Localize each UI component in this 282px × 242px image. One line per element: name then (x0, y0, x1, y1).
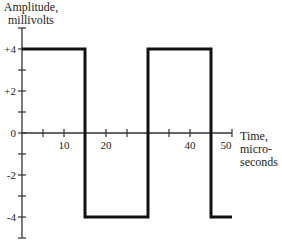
x-axis-title: Time, micro- seconds (240, 130, 282, 169)
y-tick-label: +4 (4, 43, 16, 55)
x-axis-title-line-3: seconds (240, 156, 282, 169)
plot-area: +4+20-2-410204050 (0, 0, 282, 242)
y-tick-label: +2 (4, 85, 16, 97)
x-tick-label: 10 (59, 139, 71, 151)
y-axis-title-line-2: millivolts (0, 14, 62, 27)
x-tick-label: 40 (185, 139, 197, 151)
y-axis-title: Amplitude, millivolts (0, 1, 62, 27)
x-tick-label: 50 (221, 139, 233, 151)
y-tick-label: -2 (7, 169, 16, 181)
y-tick-label: -4 (7, 211, 17, 223)
y-tick-label: 0 (11, 127, 17, 139)
square-wave-chart: +4+20-2-410204050 (0, 0, 282, 242)
x-tick-label: 20 (101, 139, 113, 151)
